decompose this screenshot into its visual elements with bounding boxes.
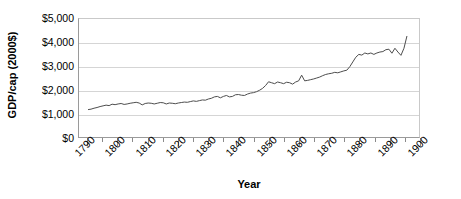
series-line-gdp-per-capita [79,19,419,137]
gdp-per-capita-line-chart: GDP/cap (2000$) $5,000$4,000$3,000$2,000… [0,0,461,199]
x-axis-title: Year [78,178,420,190]
x-axis-minor-tick [223,138,224,142]
x-axis-minor-tick [254,138,255,142]
x-axis-minor-tick [405,138,406,142]
y-axis-tick-label: $2,000 [22,85,74,95]
series-path [88,36,407,110]
x-axis-minor-tick [163,138,164,142]
x-axis-tick-labels: 1790180018101820183018401850186018701880… [0,146,461,180]
y-axis-title: GDP/cap (2000$) [0,0,24,150]
y-axis-tick-label: $3,000 [22,61,74,71]
y-axis-tick-labels: $5,000$4,000$3,000$2,000$1,000$0 [22,0,74,150]
x-axis-minor-tick [344,138,345,142]
y-axis-tick-label: $5,000 [22,13,74,23]
plot-area [78,18,420,138]
y-axis-title-text: GDP/cap (2000$) [6,32,18,119]
x-axis-minor-tick [102,138,103,142]
x-axis-minor-tick [284,138,285,142]
x-axis-minor-tick [193,138,194,142]
y-axis-tick-label: $4,000 [22,37,74,47]
x-axis-minor-tick [375,138,376,142]
y-axis-tick-label: $1,000 [22,109,74,119]
x-axis-minor-tick [314,138,315,142]
y-axis-tick-label: $0 [22,133,74,143]
x-axis-minor-tick [132,138,133,142]
